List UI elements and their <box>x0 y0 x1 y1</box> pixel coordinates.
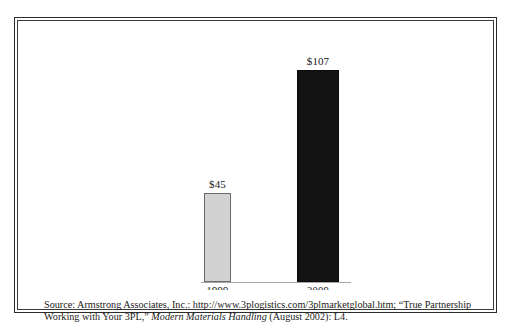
bar-1999 <box>204 193 231 282</box>
source-note-publication-title: Modern Materials Handling <box>151 311 266 322</box>
source-note-line2-prefix: Working with Your 3PL,” <box>44 311 151 322</box>
x-axis-category-2009: 2009 <box>294 285 342 290</box>
figure-root: $45 $107 1999 2009 Source: Armstrong Ass… <box>0 0 513 330</box>
x-axis-baseline <box>201 282 351 283</box>
bar-value-label-2009: $107 <box>294 56 342 67</box>
figure-inner-border: $45 $107 1999 2009 Source: Armstrong Ass… <box>17 20 494 310</box>
source-note-line2-suffix: (August 2002): L4. <box>267 311 348 322</box>
x-axis-category-1999: 1999 <box>193 285 242 290</box>
bar-value-label-1999: $45 <box>194 179 241 190</box>
bar-2009 <box>297 70 339 282</box>
source-note: Source: Armstrong Associates, Inc.: http… <box>44 299 498 324</box>
source-note-line1: Source: Armstrong Associates, Inc.: http… <box>44 299 471 310</box>
bar-chart-plot-area: $45 $107 1999 2009 <box>36 42 511 290</box>
